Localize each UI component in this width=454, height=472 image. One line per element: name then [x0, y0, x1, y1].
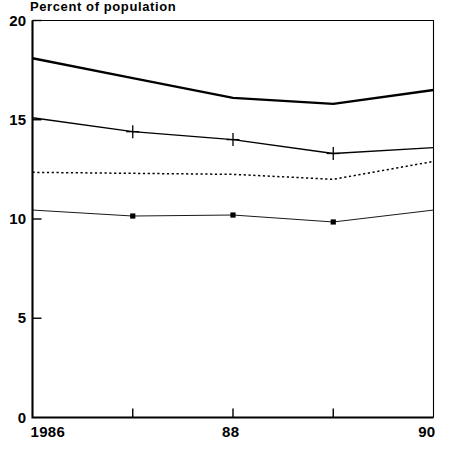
- marker-square: [331, 219, 336, 224]
- series-line-1: [33, 58, 434, 104]
- marker-plus: [227, 133, 240, 146]
- y-axis-label-20: 20: [9, 12, 26, 29]
- y-axis-label-10: 10: [9, 210, 26, 227]
- axes: [33, 21, 434, 418]
- x-axis-label-1986: 1986: [31, 423, 66, 440]
- series-line-3: [33, 161, 434, 179]
- chart-container: Percent of population 0510152019868890: [0, 0, 454, 472]
- marker-plus: [327, 147, 340, 160]
- x-axis-label-88: 88: [222, 423, 239, 440]
- marker-plus: [126, 125, 139, 138]
- plot-area: [0, 0, 454, 472]
- marker-square: [130, 213, 135, 218]
- y-axis-label-0: 0: [18, 409, 27, 426]
- marker-square: [230, 212, 235, 217]
- data-series: [33, 58, 434, 224]
- y-axis-label-5: 5: [18, 309, 27, 326]
- x-axis-label-90: 90: [418, 423, 435, 440]
- y-axis-label-15: 15: [9, 111, 26, 128]
